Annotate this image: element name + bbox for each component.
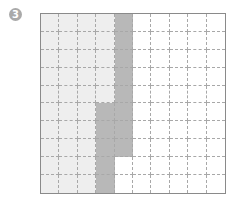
grid-cell-light bbox=[59, 175, 77, 193]
grid-cell-white bbox=[170, 32, 188, 50]
grid-cell-light bbox=[59, 157, 77, 175]
grid-cell-white bbox=[170, 14, 188, 32]
grid-cell-white bbox=[207, 121, 225, 139]
grid-cell-dark bbox=[115, 103, 133, 121]
grid-cell-light bbox=[59, 103, 77, 121]
grid-cell-light bbox=[41, 175, 59, 193]
grid-cell-white bbox=[188, 121, 206, 139]
grid-cell-light bbox=[78, 157, 96, 175]
grid-cell-light bbox=[41, 32, 59, 50]
grid-cell-dark bbox=[96, 139, 114, 157]
grid-cell-white bbox=[133, 50, 151, 68]
grid-cell-white bbox=[188, 50, 206, 68]
grid-cell-light bbox=[96, 32, 114, 50]
problem-number-badge: 3 bbox=[9, 8, 22, 21]
grid-cell-light bbox=[59, 86, 77, 104]
grid-cell-white bbox=[115, 175, 133, 193]
grid-cell-white bbox=[151, 68, 169, 86]
grid-cell-white bbox=[188, 175, 206, 193]
grid-cell-dark bbox=[115, 86, 133, 104]
grid-cell-dark bbox=[115, 32, 133, 50]
grid-cell-white bbox=[151, 139, 169, 157]
grid-cell-light bbox=[59, 50, 77, 68]
grid-cell-white bbox=[151, 103, 169, 121]
grid-cell-light bbox=[41, 14, 59, 32]
grid-cell-white bbox=[188, 32, 206, 50]
grid-cell-dark bbox=[96, 175, 114, 193]
grid-cell-light bbox=[59, 121, 77, 139]
grid-cell-dark bbox=[115, 14, 133, 32]
grid-cell-light bbox=[78, 68, 96, 86]
grid-cell-light bbox=[59, 68, 77, 86]
grid-cell-dark bbox=[115, 121, 133, 139]
grid-cell-light bbox=[41, 157, 59, 175]
grid-cell-white bbox=[170, 103, 188, 121]
grid-cell-light bbox=[78, 14, 96, 32]
grid-cell-light bbox=[78, 121, 96, 139]
grid-cell-dark bbox=[96, 157, 114, 175]
grid-cell-white bbox=[133, 32, 151, 50]
grid-cell-white bbox=[151, 175, 169, 193]
grid-cell-white bbox=[115, 157, 133, 175]
grid-cell-white bbox=[170, 68, 188, 86]
grid-cell-white bbox=[188, 86, 206, 104]
grid-cell-white bbox=[207, 157, 225, 175]
grid-cell-light bbox=[41, 68, 59, 86]
grid-cell-white bbox=[133, 175, 151, 193]
grid-cell-light bbox=[96, 68, 114, 86]
grid-cell-white bbox=[207, 103, 225, 121]
grid-cell-light bbox=[41, 121, 59, 139]
grid-cell-white bbox=[188, 103, 206, 121]
grid-cell-light bbox=[41, 50, 59, 68]
grid-cell-white bbox=[151, 121, 169, 139]
grid-cell-white bbox=[170, 121, 188, 139]
grid-cell-white bbox=[207, 68, 225, 86]
grid-cell-dark bbox=[96, 121, 114, 139]
grid-cell-white bbox=[151, 32, 169, 50]
grid-cell-white bbox=[133, 68, 151, 86]
grid-cell-white bbox=[151, 157, 169, 175]
grid-cell-white bbox=[188, 68, 206, 86]
grid-cell-white bbox=[207, 50, 225, 68]
hundred-grid bbox=[40, 13, 226, 194]
grid-cell-dark bbox=[115, 50, 133, 68]
grid-cell-light bbox=[41, 86, 59, 104]
grid-cell-white bbox=[133, 103, 151, 121]
grid-cell-light bbox=[78, 103, 96, 121]
grid-cell-dark bbox=[115, 139, 133, 157]
grid-cell-white bbox=[170, 50, 188, 68]
grid-cell-white bbox=[170, 139, 188, 157]
grid-cell-white bbox=[151, 86, 169, 104]
grid-cell-light bbox=[78, 50, 96, 68]
grid-cell-dark bbox=[115, 68, 133, 86]
grid-cell-white bbox=[188, 139, 206, 157]
grid-cell-white bbox=[133, 157, 151, 175]
grid-cell-white bbox=[188, 157, 206, 175]
grid-cell-white bbox=[170, 157, 188, 175]
grid-cell-white bbox=[207, 175, 225, 193]
grid-cell-white bbox=[207, 86, 225, 104]
grid-cell-light bbox=[41, 103, 59, 121]
grid-cell-light bbox=[59, 14, 77, 32]
grid-cell-white bbox=[151, 14, 169, 32]
grid-cell-light bbox=[78, 175, 96, 193]
grid-cell-light bbox=[96, 86, 114, 104]
grid-cell-light bbox=[59, 139, 77, 157]
grid-cell-white bbox=[207, 139, 225, 157]
grid-cell-dark bbox=[96, 103, 114, 121]
grid-cell-light bbox=[78, 32, 96, 50]
grid-cell-white bbox=[170, 175, 188, 193]
grid-cell-white bbox=[133, 14, 151, 32]
grid-cell-light bbox=[78, 139, 96, 157]
grid-cell-white bbox=[207, 32, 225, 50]
grid-cell-white bbox=[170, 86, 188, 104]
grid-cell-white bbox=[133, 86, 151, 104]
grid-cell-light bbox=[96, 50, 114, 68]
grid-cell-light bbox=[41, 139, 59, 157]
grid-cell-white bbox=[151, 50, 169, 68]
grid-cell-light bbox=[59, 32, 77, 50]
grid-cell-white bbox=[133, 121, 151, 139]
grid-cell-white bbox=[133, 139, 151, 157]
grid-cell-light bbox=[78, 86, 96, 104]
grid-cell-white bbox=[207, 14, 225, 32]
